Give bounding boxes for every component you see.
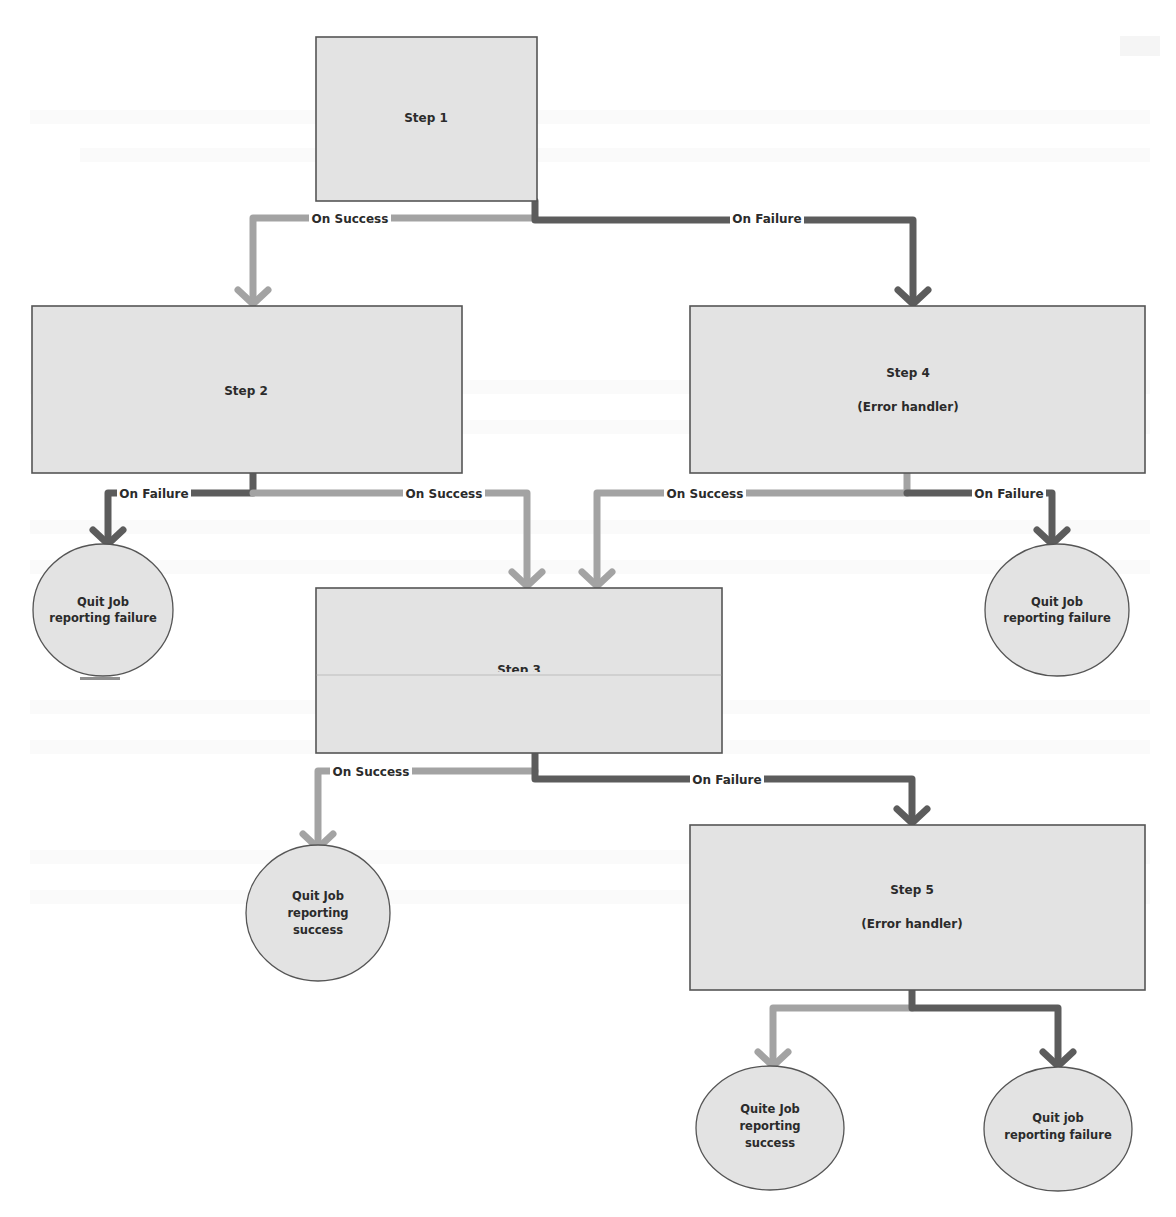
connector-step5-failure (912, 990, 1073, 1066)
connector-step1-success (238, 218, 535, 304)
edge-label-step4-success: On Success (664, 486, 746, 501)
node-quit-failure-right: Quit Job reporting failure (985, 544, 1129, 676)
svg-text:reporting: reporting (739, 1119, 800, 1133)
svg-text:On Success: On Success (406, 487, 483, 501)
svg-text:reporting failure: reporting failure (49, 611, 157, 625)
svg-text:success: success (293, 923, 343, 937)
svg-text:On Failure: On Failure (119, 487, 188, 501)
node-quit-success-bottom: Quite Job reporting success (696, 1066, 844, 1190)
svg-text:Step 5: Step 5 (890, 883, 934, 897)
scan-smudge (80, 677, 120, 680)
edge-label-step2-failure: On Failure (117, 486, 191, 501)
svg-text:reporting: reporting (287, 906, 348, 920)
node-step5: Step 5 (Error handler) (690, 825, 1145, 990)
svg-text:On Success: On Success (312, 212, 389, 226)
node-quit-failure-bottom: Quit job reporting failure (984, 1067, 1132, 1191)
svg-text:On Failure: On Failure (732, 212, 801, 226)
node-step2: Step 2 (32, 306, 462, 473)
node-quit-success-mid: Quit Job reporting success (246, 845, 390, 981)
node-step4: Step 4 (Error handler) (690, 306, 1145, 473)
flowchart-canvas: On Success On Failure On Failure On Succ… (0, 0, 1176, 1217)
svg-text:Quit Job: Quit Job (292, 889, 344, 903)
edge-label-step2-success: On Success (403, 486, 485, 501)
svg-text:Step 4: Step 4 (886, 366, 930, 380)
edge-label-step3-success: On Success (330, 764, 412, 779)
svg-text:On Success: On Success (333, 765, 410, 779)
svg-text:Quit job: Quit job (1032, 1111, 1083, 1125)
connector-step3-success (303, 771, 535, 848)
svg-text:Step 1: Step 1 (404, 111, 448, 125)
svg-text:Quit Job: Quit Job (1031, 595, 1083, 609)
edge-label-step3-failure: On Failure (690, 772, 764, 787)
edge-label-step1-success: On Success (309, 211, 391, 226)
svg-text:On Failure: On Failure (974, 487, 1043, 501)
node-quit-failure-left: Quit Job reporting failure (33, 544, 173, 676)
svg-text:Quite Job: Quite Job (740, 1102, 800, 1116)
node-step1: Step 1 (316, 37, 537, 201)
node-step3: Step 3 (316, 588, 722, 753)
svg-text:On Failure: On Failure (692, 773, 761, 787)
svg-text:Step 2: Step 2 (224, 384, 268, 398)
connector-step3-failure (535, 753, 927, 823)
svg-text:(Error handler): (Error handler) (861, 917, 962, 931)
connector-step5-success (758, 1008, 912, 1066)
svg-text:reporting failure: reporting failure (1004, 1128, 1112, 1142)
edge-label-step4-failure: On Failure (972, 486, 1046, 501)
svg-text:reporting failure: reporting failure (1003, 611, 1111, 625)
svg-text:success: success (745, 1136, 795, 1150)
svg-text:On Success: On Success (667, 487, 744, 501)
svg-text:(Error handler): (Error handler) (857, 400, 958, 414)
edge-label-step1-failure: On Failure (730, 211, 804, 226)
svg-text:Quit Job: Quit Job (77, 595, 129, 609)
